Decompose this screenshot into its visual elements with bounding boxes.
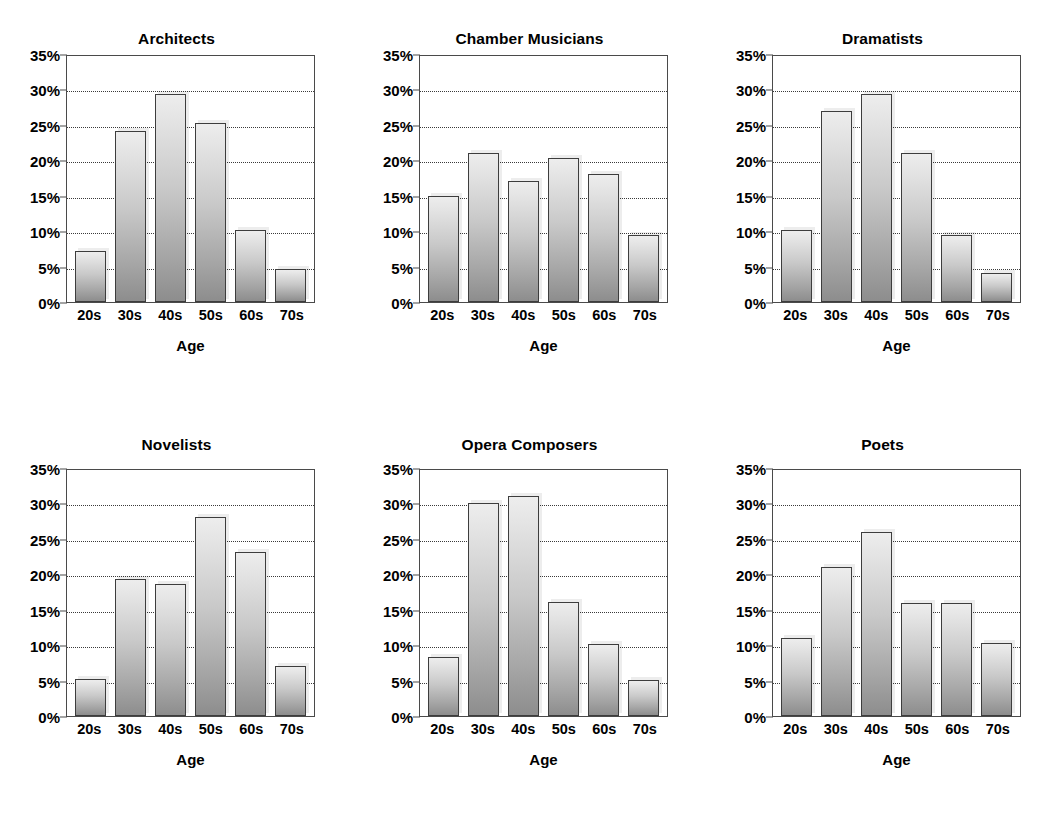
bar-series bbox=[420, 470, 667, 716]
bar-slot bbox=[75, 470, 106, 716]
axes-area: 35%30%25%20%15%10%5%0%20s30s40s50s60s70s… bbox=[706, 55, 1059, 385]
bar[interactable] bbox=[548, 602, 579, 716]
x-tick-label: 40s bbox=[861, 307, 892, 323]
x-tick-label: 30s bbox=[114, 721, 145, 737]
bar[interactable] bbox=[628, 235, 659, 302]
y-tick-label: 0% bbox=[710, 296, 766, 311]
y-tick-label: 5% bbox=[357, 260, 413, 275]
x-axis-labels: 20s30s40s50s60s70s bbox=[66, 721, 315, 737]
x-axis-title: Age bbox=[66, 751, 315, 768]
plot-area bbox=[772, 469, 1021, 717]
x-tick-label: 20s bbox=[74, 721, 105, 737]
x-tick-label: 40s bbox=[508, 307, 539, 323]
bar[interactable] bbox=[235, 230, 266, 302]
bar[interactable] bbox=[861, 94, 892, 302]
bar[interactable] bbox=[428, 196, 459, 302]
bar[interactable] bbox=[901, 153, 932, 302]
x-axis-title: Age bbox=[772, 337, 1021, 354]
bar-slot bbox=[155, 56, 186, 302]
x-tick-label: 60s bbox=[236, 307, 267, 323]
plot-area bbox=[66, 55, 315, 303]
bar[interactable] bbox=[75, 251, 106, 302]
bar-slot bbox=[981, 56, 1012, 302]
panel-grid: Architects35%30%25%20%15%10%5%0%20s30s40… bbox=[0, 0, 1059, 828]
y-tick-label: 30% bbox=[4, 497, 60, 512]
bar[interactable] bbox=[508, 496, 539, 716]
bar[interactable] bbox=[588, 644, 619, 716]
x-tick-label: 40s bbox=[861, 721, 892, 737]
x-tick-label: 60s bbox=[589, 307, 620, 323]
bar[interactable] bbox=[235, 552, 266, 716]
plot-area bbox=[419, 469, 668, 717]
x-tick-label: 40s bbox=[155, 307, 186, 323]
bar[interactable] bbox=[548, 158, 579, 302]
chart-panel: Opera Composers35%30%25%20%15%10%5%0%20s… bbox=[353, 414, 706, 828]
bar[interactable] bbox=[821, 567, 852, 716]
x-tick-label: 40s bbox=[155, 721, 186, 737]
bar[interactable] bbox=[155, 94, 186, 302]
bar[interactable] bbox=[468, 153, 499, 302]
bar[interactable] bbox=[781, 638, 812, 716]
axes-area: 35%30%25%20%15%10%5%0%20s30s40s50s60s70s… bbox=[0, 55, 353, 385]
x-axis-title: Age bbox=[419, 751, 668, 768]
bar-slot bbox=[588, 470, 619, 716]
y-tick-label: 30% bbox=[710, 83, 766, 98]
x-axis-labels: 20s30s40s50s60s70s bbox=[772, 721, 1021, 737]
plot-area bbox=[66, 469, 315, 717]
bar[interactable] bbox=[508, 181, 539, 302]
bar[interactable] bbox=[981, 643, 1012, 716]
y-tick-label: 30% bbox=[357, 497, 413, 512]
bar[interactable] bbox=[75, 679, 106, 716]
bar[interactable] bbox=[195, 123, 226, 302]
y-axis-labels: 35%30%25%20%15%10%5%0% bbox=[357, 469, 413, 717]
bar[interactable] bbox=[821, 111, 852, 302]
x-tick-label: 20s bbox=[74, 307, 105, 323]
x-tick-label: 20s bbox=[780, 721, 811, 737]
bar-slot bbox=[901, 470, 932, 716]
bar[interactable] bbox=[941, 603, 972, 716]
bar[interactable] bbox=[115, 579, 146, 716]
y-tick-label: 25% bbox=[710, 118, 766, 133]
bar[interactable] bbox=[861, 532, 892, 716]
bar-slot bbox=[115, 56, 146, 302]
bar-slot bbox=[235, 56, 266, 302]
bar[interactable] bbox=[275, 269, 306, 302]
bar[interactable] bbox=[628, 680, 659, 716]
bar[interactable] bbox=[468, 503, 499, 716]
bar-slot bbox=[821, 56, 852, 302]
axes-area: 35%30%25%20%15%10%5%0%20s30s40s50s60s70s… bbox=[353, 55, 706, 385]
x-tick-label: 40s bbox=[508, 721, 539, 737]
bar-slot bbox=[75, 56, 106, 302]
bar-slot bbox=[195, 56, 226, 302]
y-tick-label: 10% bbox=[4, 225, 60, 240]
y-tick-label: 25% bbox=[4, 118, 60, 133]
bar-slot bbox=[428, 470, 459, 716]
x-tick-label: 30s bbox=[114, 307, 145, 323]
y-tick-label: 25% bbox=[357, 532, 413, 547]
bar-series bbox=[67, 470, 314, 716]
bar-slot bbox=[275, 56, 306, 302]
bar[interactable] bbox=[428, 657, 459, 716]
bar[interactable] bbox=[901, 603, 932, 716]
y-axis-labels: 35%30%25%20%15%10%5%0% bbox=[357, 55, 413, 303]
x-tick-label: 60s bbox=[236, 721, 267, 737]
bar[interactable] bbox=[781, 230, 812, 302]
bar[interactable] bbox=[115, 131, 146, 302]
y-axis-labels: 35%30%25%20%15%10%5%0% bbox=[710, 469, 766, 717]
y-tick-label: 0% bbox=[710, 710, 766, 725]
x-tick-label: 70s bbox=[982, 307, 1013, 323]
bar[interactable] bbox=[588, 174, 619, 302]
bar[interactable] bbox=[195, 517, 226, 716]
y-tick-label: 0% bbox=[357, 710, 413, 725]
x-axis-labels: 20s30s40s50s60s70s bbox=[66, 307, 315, 323]
bar-slot bbox=[941, 470, 972, 716]
y-tick-label: 35% bbox=[710, 462, 766, 477]
y-tick-label: 25% bbox=[4, 532, 60, 547]
x-axis-title: Age bbox=[66, 337, 315, 354]
bar-slot bbox=[115, 470, 146, 716]
chart-title: Opera Composers bbox=[353, 436, 706, 454]
bar[interactable] bbox=[275, 666, 306, 716]
bar[interactable] bbox=[981, 273, 1012, 302]
bar[interactable] bbox=[155, 584, 186, 716]
bar[interactable] bbox=[941, 235, 972, 302]
